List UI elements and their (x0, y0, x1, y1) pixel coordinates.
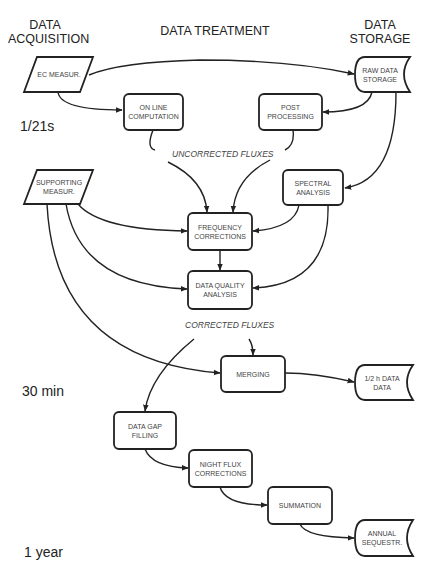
node-raw-data-storage: RAW DATA STORAGE (355, 57, 405, 92)
time-scale-year: 1 year (24, 544, 63, 560)
node-half-hour-data: 1/2 h DATA DATA (357, 365, 407, 400)
edge-corrected-to-merging (249, 339, 253, 355)
header-data-treatment: DATA TREATMENT (150, 24, 280, 38)
edge-spectral-to-freq (253, 205, 299, 231)
node-data-gap-filling: DATA GAP FILLING (114, 412, 176, 449)
edge-ec-to-raw (89, 60, 354, 75)
node-frequency-corrections: FREQUENCY CORRECTIONS (188, 213, 252, 250)
node-data-quality-analysis: DATA QUALITY ANALYSIS (188, 271, 252, 309)
node-annual-sequestr: ANNUAL SEQUESTR. (357, 520, 407, 556)
node-post-processing: POST PROCESSING (259, 94, 322, 130)
edge-merging-to-halfhour (285, 373, 354, 382)
header-data-storage: DATA STORAGE (345, 18, 415, 46)
node-supporting-measur: SUPPORTING MEASUR. (26, 170, 92, 204)
node-summation: SUMMATION (268, 487, 332, 524)
edge-ec-to-online (58, 92, 122, 110)
edge-raw-to-post (323, 92, 372, 112)
time-scale-high-frequency: 1/21s (20, 118, 54, 134)
edge-supp-to-dqa (66, 204, 187, 289)
edge-supp-to-freq (78, 204, 187, 231)
edge-spectral-to-dqa (253, 205, 328, 288)
node-ec-measur: EC MEASUR. (26, 57, 92, 92)
corrected-fluxes-label: CORRECTED FLUXES (185, 320, 274, 330)
header-data-acquisition: DATA ACQUISITION (8, 18, 82, 46)
time-scale-half-hour: 30 min (22, 383, 64, 399)
edge-corrected-to-gapfill (145, 339, 194, 411)
edge-raw-to-spectral (345, 92, 396, 188)
edge-gapfill-to-night (145, 449, 188, 468)
node-merging: MERGING (221, 356, 285, 392)
node-online-computation: ON LINE COMPUTATION (124, 94, 183, 130)
node-night-flux-corrections: NIGHT FLUX CORRECTIONS (189, 450, 252, 487)
edge-night-to-summation (220, 487, 267, 505)
edge-summation-to-annual (300, 524, 354, 538)
uncorrected-fluxes-label: UNCORRECTED FLUXES (172, 149, 274, 159)
node-spectral-analysis: SPECTRAL ANALYSIS (283, 170, 343, 205)
edge-online-to-freq (150, 130, 207, 212)
